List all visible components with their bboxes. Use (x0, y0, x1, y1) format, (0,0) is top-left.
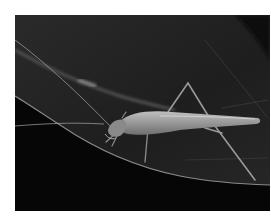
photo-illustration (15, 15, 270, 211)
image-canvas: Grayscale macro photo of a long-legged t… (0, 0, 271, 221)
insect-photo: Grayscale macro photo of a long-legged t… (15, 15, 270, 211)
